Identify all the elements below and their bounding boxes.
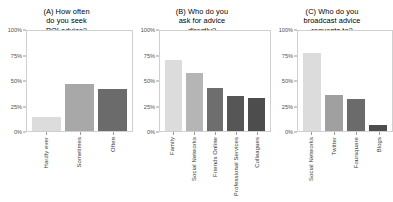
x-tick-label: Twitter (331, 137, 337, 155)
x-tick-cell: Blogs (370, 132, 389, 200)
x-tick-mark (46, 132, 47, 135)
bar (165, 60, 182, 131)
bar (207, 88, 224, 131)
x-tick-label: Sometimes (76, 137, 82, 168)
x-tick-label: Professional Services (233, 137, 239, 196)
x-tick-label: Social Networks (191, 137, 197, 181)
x-tick-mark (311, 132, 312, 135)
panel-b-x-axis: FamilySocial NetworksFriends OnlineProfe… (159, 132, 271, 200)
panel-b-plot-wrap: 0%25%50%75%100% (133, 30, 271, 132)
x-tick-cell: Friends Online (206, 132, 223, 200)
x-tick-cell: Social Networks (185, 132, 202, 200)
panel-c-x-axis: Social NetworksTwitterFoursquareBlogs (297, 132, 393, 200)
panel-c-title-line2: broadcast advice (303, 16, 360, 25)
panel-a-title-line2: do you seek (46, 16, 87, 25)
x-tick-cell: Twitter (325, 132, 344, 200)
x-tick-label: Friends Online (212, 137, 218, 177)
panel-b-ytick: 0% (147, 129, 159, 135)
x-tick-mark (334, 132, 335, 135)
panel-b: (B) Who do you ask for advice directly? … (133, 0, 271, 202)
panel-c-plot-wrap: 0%25%50%75%100% (271, 30, 393, 132)
bar (65, 84, 94, 131)
panel-a-plot-area (26, 30, 133, 132)
panel-b-title-line1: (B) Who do you (176, 7, 228, 16)
x-tick-label: Colleagues (254, 137, 260, 168)
panel-a-x-axis: Hardly everSometimesOften (26, 132, 133, 200)
panel-c: (C) Who do you broadcast advice requests… (271, 0, 393, 202)
bar (98, 89, 127, 131)
panel-a-ytick: 100% (8, 27, 26, 33)
x-tick-mark (194, 132, 195, 135)
panel-c-ytick: 25% (282, 104, 297, 110)
panel-c-ytick: 100% (279, 27, 297, 33)
bar (347, 99, 365, 131)
panel-a-title-line1: (A) How often (43, 7, 89, 16)
panel-b-ytick: 50% (144, 78, 159, 84)
panel-a-title: (A) How often do you seek POI advice? (0, 0, 133, 30)
x-tick-mark (236, 132, 237, 135)
x-tick-cell: Hardly ever (31, 132, 61, 200)
panel-b-ytick: 100% (141, 27, 159, 33)
x-tick-cell: Social Networks (302, 132, 321, 200)
panel-a-ytick: 25% (11, 104, 26, 110)
bar-chart-figure: (A) How often do you seek POI advice? 0%… (0, 0, 393, 202)
panel-b-ytick: 75% (144, 53, 159, 59)
x-tick-mark (113, 132, 114, 135)
panel-c-ytick: 75% (282, 53, 297, 59)
panel-b-title-line2: ask for advice (179, 16, 226, 25)
panel-a-bars (27, 31, 132, 131)
panel-c-ytick: 50% (282, 78, 297, 84)
x-tick-label: Blogs (376, 137, 382, 152)
x-tick-mark (356, 132, 357, 135)
x-tick-mark (173, 132, 174, 135)
panel-c-y-axis: 0%25%50%75%100% (271, 30, 297, 132)
x-tick-cell: Often (98, 132, 128, 200)
panel-a-y-axis: 0%25%50%75%100% (0, 30, 26, 132)
panel-c-title-line1: (C) Who do you (306, 7, 359, 16)
bar (32, 117, 61, 131)
x-tick-label: Foursquare (353, 137, 359, 168)
x-tick-cell: Professional Services (228, 132, 245, 200)
panel-b-plot-area (159, 30, 271, 132)
panel-a: (A) How often do you seek POI advice? 0%… (0, 0, 133, 202)
x-tick-mark (215, 132, 216, 135)
x-tick-cell: Family (164, 132, 181, 200)
x-tick-label: Social Networks (308, 137, 314, 181)
bar (325, 95, 343, 131)
x-tick-mark (80, 132, 81, 135)
bar (227, 96, 244, 131)
x-tick-cell: Sometimes (65, 132, 95, 200)
panel-a-ytick: 75% (11, 53, 26, 59)
panel-c-ytick: 0% (285, 129, 297, 135)
x-tick-label: Often (110, 137, 116, 152)
x-tick-label: Family (169, 137, 175, 155)
panel-b-title: (B) Who do you ask for advice directly? (133, 0, 271, 30)
x-tick-cell: Colleagues (249, 132, 266, 200)
panel-a-ytick: 50% (11, 78, 26, 84)
bar (186, 73, 203, 131)
panel-c-plot-area (297, 30, 393, 132)
bar (369, 125, 387, 131)
panel-a-ytick: 0% (14, 129, 26, 135)
x-tick-mark (257, 132, 258, 135)
panel-a-plot-wrap: 0%25%50%75%100% (0, 30, 133, 132)
panel-c-bars (298, 31, 392, 131)
bar (248, 98, 265, 131)
panel-b-bars (160, 31, 270, 131)
panel-c-title: (C) Who do you broadcast advice requests… (271, 0, 393, 30)
panel-b-y-axis: 0%25%50%75%100% (133, 30, 159, 132)
panel-b-ytick: 25% (144, 104, 159, 110)
bar (303, 53, 321, 131)
x-tick-mark (379, 132, 380, 135)
x-tick-cell: Foursquare (347, 132, 366, 200)
x-tick-label: Hardly ever (43, 137, 49, 168)
